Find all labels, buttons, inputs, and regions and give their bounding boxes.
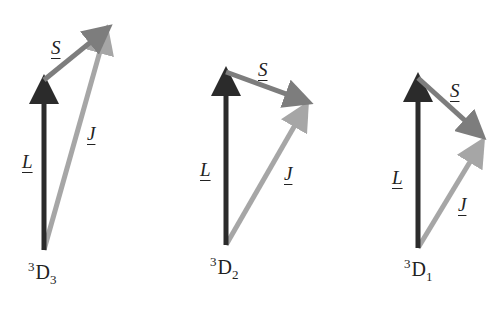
vector-label-L: L xyxy=(200,160,211,179)
term-j-value: 3 xyxy=(50,272,57,287)
term-j-value: 2 xyxy=(232,267,239,282)
term-letter: D xyxy=(36,261,50,283)
vector-label-J: J xyxy=(458,195,466,214)
vector-label-J: J xyxy=(87,124,95,143)
vector-label-S: S xyxy=(258,60,268,79)
term-letter: D xyxy=(412,258,426,280)
vector-J-arrow xyxy=(418,150,477,248)
term-multiplicity: 3 xyxy=(28,259,35,274)
vector-label-J: J xyxy=(284,164,292,183)
vector-S-arrow xyxy=(418,78,475,130)
term-j-value: 1 xyxy=(426,269,433,284)
vector-label-S: S xyxy=(51,38,61,57)
vector-label-L: L xyxy=(22,152,33,171)
vector-label-S: S xyxy=(450,81,460,100)
term-symbol: 3D3 xyxy=(28,260,56,286)
term-multiplicity: 3 xyxy=(404,256,411,271)
vector-label-L: L xyxy=(392,168,403,187)
term-letter: D xyxy=(218,256,232,278)
term-symbol: 3D2 xyxy=(210,255,238,281)
coupling-diagram-3 xyxy=(418,78,477,248)
term-multiplicity: 3 xyxy=(210,254,217,269)
coupling-diagram-2 xyxy=(226,72,302,245)
term-symbol: 3D1 xyxy=(404,257,432,283)
